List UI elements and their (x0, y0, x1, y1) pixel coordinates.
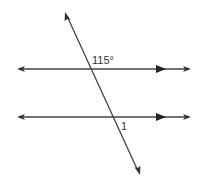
angle-label-1: 1 (121, 120, 127, 132)
arrowhead-up-icon (65, 12, 71, 21)
parallel-mark-icon (156, 65, 166, 73)
diagram-canvas: 115° 1 (0, 0, 199, 187)
arrowhead-down-icon (135, 166, 141, 175)
transversal-line (65, 12, 141, 175)
parallel-line-bottom (17, 113, 191, 121)
angle-label-115: 115° (92, 54, 114, 66)
parallel-line-top (17, 65, 191, 73)
parallel-mark-icon (156, 113, 166, 121)
